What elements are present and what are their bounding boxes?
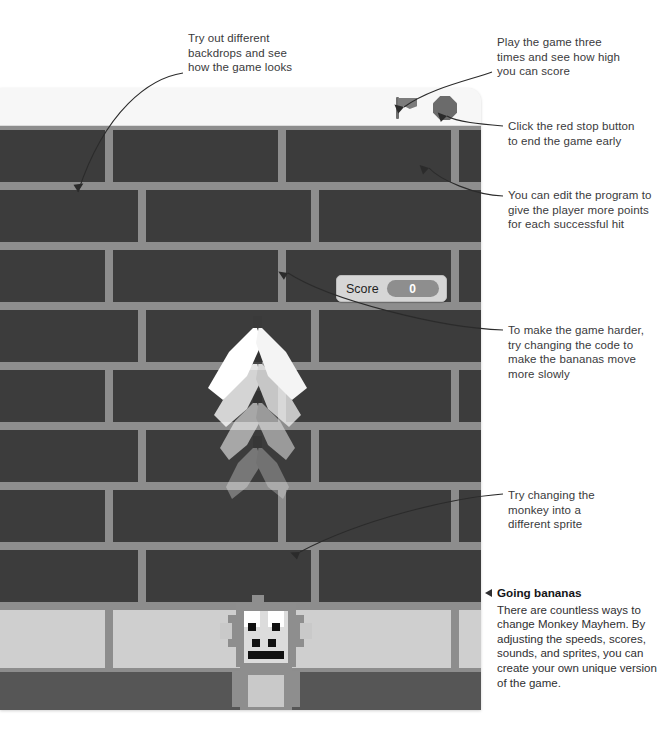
caption-body: There are countless ways to change Monke…	[497, 603, 669, 691]
caption-heading-row: Going bananas	[485, 586, 669, 601]
annotation-make-harder: To make the game harder, try changing th…	[508, 323, 668, 381]
stop-sign-icon[interactable]	[433, 96, 457, 120]
score-value: 0	[387, 280, 439, 297]
score-display: Score 0	[336, 275, 447, 302]
score-label: Score	[346, 282, 379, 296]
scratch-window: Score 0	[0, 88, 481, 710]
flag-cloth	[398, 98, 417, 109]
annotation-play-three-times: Play the game three times and see how hi…	[497, 35, 657, 79]
stage-controls	[393, 92, 457, 124]
annotation-stop-early: Click the red stop button to end the gam…	[508, 119, 670, 148]
caption-going-bananas: Going bananas There are countless ways t…	[497, 586, 669, 690]
triangle-left-icon	[485, 589, 492, 597]
page-root: Try out different backdrops and see how …	[0, 0, 671, 742]
caption-heading: Going bananas	[497, 586, 581, 601]
window-titlebar	[0, 88, 481, 126]
annotation-change-sprite: Try changing the monkey into a different…	[508, 488, 658, 532]
annotation-more-points: You can edit the program to give the pla…	[508, 188, 671, 232]
annotation-backdrops: Try out different backdrops and see how …	[188, 31, 338, 75]
sprite-bananas[interactable]	[196, 313, 316, 523]
sprite-monkey[interactable]	[216, 591, 316, 710]
stage-area[interactable]: Score 0	[0, 126, 481, 710]
green-flag-icon[interactable]	[393, 95, 419, 121]
